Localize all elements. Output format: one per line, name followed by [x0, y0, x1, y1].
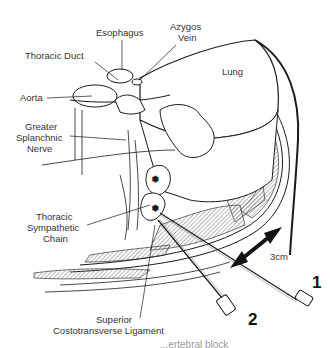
label-greater-splanchnic-1: Greater [25, 121, 57, 132]
esophagus-shape [107, 69, 133, 83]
label-thoracic-duct: Thoracic Duct [25, 50, 84, 61]
transverse-process-marker-lower: ✱ [152, 204, 159, 213]
caption-fragment: ...ertebral block [160, 338, 330, 348]
label-aorta: Aorta [20, 92, 43, 103]
aorta-shape [73, 85, 117, 107]
measurement-label: 3cm [270, 251, 288, 262]
label-ligament-2: Costotransverse Ligament [53, 325, 164, 336]
label-ligament-1: Superior [96, 314, 132, 325]
needle-1-label: 1 [312, 273, 321, 293]
label-lung: Lung [222, 66, 243, 77]
label-thoracic-sympathetic-3: Chain [43, 233, 68, 244]
label-thoracic-sympathetic-2: Sympathetic [27, 222, 79, 233]
label-greater-splanchnic-3: Nerve [27, 143, 52, 154]
label-esophagus: Esophagus [96, 27, 144, 38]
label-greater-splanchnic-2: Splanchnic [16, 132, 62, 143]
label-azygos-vein-1: Azygos [170, 21, 201, 32]
nerve-structures [120, 130, 138, 240]
label-azygos-vein-2: Vein [178, 32, 197, 43]
needle-2-label: 2 [248, 310, 257, 330]
transverse-process-marker-upper: ✱ [152, 175, 159, 184]
label-thoracic-sympathetic-1: Thoracic [36, 211, 72, 222]
